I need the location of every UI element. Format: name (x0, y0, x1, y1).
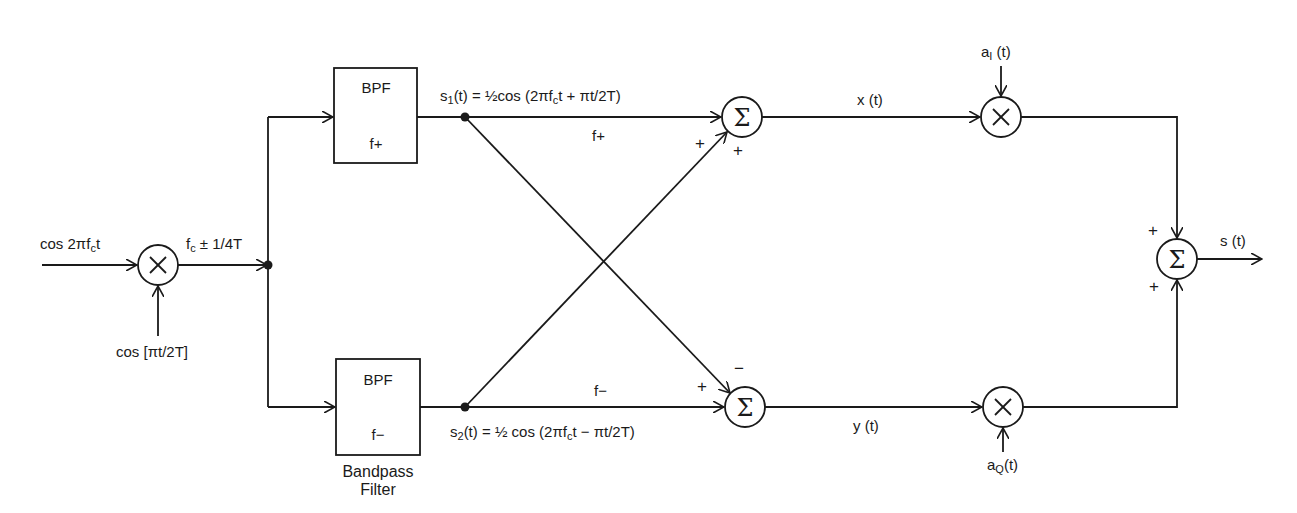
bpf-caption-line2: Filter (336, 482, 420, 498)
s2-tap-dot (461, 403, 470, 412)
bpf-bottom-title: BPF (336, 372, 420, 387)
s2-label: s2(t) = ½ cos (2πfct − πt/2T) (450, 424, 635, 442)
s1-tap-dot (461, 113, 470, 122)
sigma-bottom-icon: Σ (737, 394, 754, 422)
sum-top-sign-bottom: + (733, 142, 743, 159)
output-signal-label: s (t) (1220, 233, 1246, 248)
cross-bottom-to-top (465, 132, 727, 407)
y-signal-label: y (t) (853, 418, 879, 433)
bpf-caption-line1: Bandpass (336, 464, 420, 480)
bottom-path-label: f− (594, 383, 607, 398)
sum-top-sign-left: + (695, 135, 705, 152)
modulation-label: cos [πt/2T] (116, 344, 188, 359)
block-diagram-canvas: Σ Σ Σ (0, 0, 1297, 513)
sum-final-sign-top: + (1148, 222, 1158, 239)
sigma-top-icon: Σ (734, 104, 751, 132)
x-signal-label: x (t) (857, 92, 883, 107)
bpf-top-band: f+ (334, 136, 418, 151)
aI-label: aI (t) (981, 44, 1011, 62)
mixer-output-label: fc ± 1/4T (186, 236, 242, 254)
bpf-top-title: BPF (334, 80, 418, 95)
aQ-label: aQ(t) (987, 457, 1018, 475)
sum-bottom-sign-top: − (734, 360, 744, 377)
sigma-final-icon: Σ (1169, 246, 1186, 274)
sum-final-sign-bottom: + (1149, 278, 1159, 295)
bpf-bottom-band: f− (336, 427, 420, 442)
s1-label: s1(t) = ½cos (2πfct + πt/2T) (440, 88, 621, 106)
cross-top-to-bottom (465, 117, 730, 393)
junction-dot (264, 261, 273, 270)
sum-bottom-sign-left: + (697, 378, 707, 395)
input-carrier-label: cos 2πfct (40, 236, 100, 254)
top-path-label: f+ (592, 128, 605, 143)
